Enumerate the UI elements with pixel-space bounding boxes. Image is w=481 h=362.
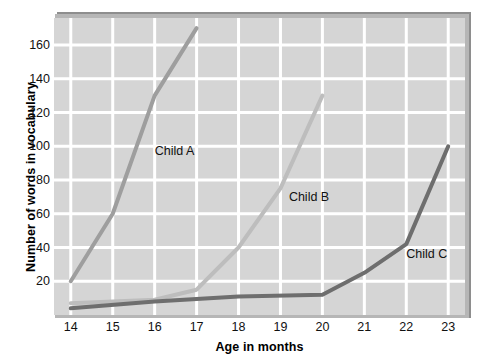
y-tick-label: 60 — [20, 208, 50, 220]
y-tick-label: 140 — [20, 73, 50, 85]
x-tick-label: 20 — [307, 321, 337, 333]
vocabulary-growth-line-chart: Number of words in vocabulary 2040608010… — [0, 0, 481, 362]
y-tick-label: 80 — [20, 174, 50, 186]
x-axis-tick-labels: 14151617181920212223 — [0, 321, 481, 339]
x-tick-label: 17 — [182, 321, 212, 333]
y-axis-tick-labels: 20406080100120140160 — [16, 0, 50, 362]
plot-canvas — [54, 18, 465, 315]
y-tick-label: 120 — [20, 107, 50, 119]
y-tick-label: 20 — [20, 275, 50, 287]
series-label-child-a: Child A — [155, 144, 195, 158]
x-tick-label: 22 — [391, 321, 421, 333]
x-tick-label: 21 — [349, 321, 379, 333]
x-tick-label: 18 — [224, 321, 254, 333]
x-tick-label: 19 — [266, 321, 296, 333]
y-tick-label: 100 — [20, 140, 50, 152]
plot-area: Child AChild BChild C — [54, 18, 465, 315]
x-tick-label: 14 — [56, 321, 86, 333]
x-axis-title: Age in months — [54, 340, 465, 354]
series-label-child-c: Child C — [406, 247, 447, 261]
y-tick-label: 40 — [20, 242, 50, 254]
y-tick-label: 160 — [20, 39, 50, 51]
series-label-child-b: Child B — [289, 190, 329, 204]
x-tick-label: 15 — [98, 321, 128, 333]
x-tick-label: 16 — [140, 321, 170, 333]
x-tick-label: 23 — [433, 321, 463, 333]
